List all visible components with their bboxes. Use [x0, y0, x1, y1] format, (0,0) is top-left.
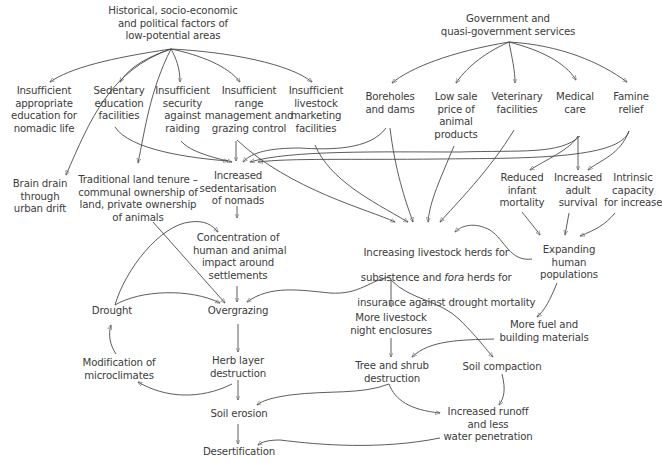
herds-line-2a: subsistence and — [361, 272, 445, 283]
edge-historical-range — [171, 49, 240, 82]
edge-adult-expanding — [565, 213, 569, 235]
edge-gov-famine — [509, 42, 627, 82]
node-concentration: Concentration of human and animal impact… — [193, 232, 283, 282]
node-sedentary-education: Sedentary education facilities — [88, 85, 150, 123]
node-medical-care: Medical care — [548, 91, 602, 116]
herds-line-2b: fora — [444, 272, 464, 283]
edge-intrinsic-expanding — [580, 213, 615, 236]
node-expanding-populations: Expanding human populations — [534, 244, 604, 282]
edge-drought-overgrazing — [115, 293, 220, 305]
edge-expanding-fuel — [537, 283, 557, 317]
edge-gov-veterinary — [509, 42, 515, 83]
node-night-enclosures: More livestock night enclosures — [348, 312, 434, 337]
edge-runoff-desertification — [258, 438, 440, 445]
node-historical-factors: Historical, socio-economic and political… — [98, 5, 248, 43]
edge-tree-runoff — [389, 384, 440, 413]
edge-microclimates-drought — [110, 325, 116, 354]
node-increasing-herds: Increasing livestock herds for subsisten… — [345, 234, 515, 322]
edge-gov-boreholes — [392, 42, 509, 83]
node-reduced-infant-mortality: Reduced infant mortality — [494, 172, 550, 210]
edge-historical-security — [171, 49, 180, 82]
node-insufficient-education: Insufficient appropriate education for n… — [4, 85, 84, 135]
edge-historical-education — [50, 49, 171, 82]
node-boreholes: Boreholes and dams — [360, 91, 420, 116]
edge-compaction-runoff — [499, 374, 504, 405]
node-microclimates: Modification of microclimates — [79, 357, 159, 382]
node-sedentarisation: Increased sedentarisation of nomads — [198, 170, 278, 208]
edge-marketing-herds — [315, 145, 408, 222]
node-government-services: Government and quasi-government services — [433, 13, 583, 38]
node-veterinary: Veterinary facilities — [486, 91, 548, 116]
node-land-tenure: Traditional land tenure – communal owner… — [78, 174, 198, 224]
edge-tree-erosion — [257, 384, 389, 405]
edge-infant-expanding — [522, 212, 540, 235]
node-tree-shrub: Tree and shrub destruction — [352, 360, 432, 385]
node-intrinsic-capacity: Intrinsic capacity for increase — [604, 172, 662, 210]
node-insufficient-marketing: Insufficient livestock marketing facilit… — [284, 85, 348, 135]
node-drought: Drought — [88, 305, 136, 318]
node-fuel-building: More fuel and building materials — [497, 319, 591, 344]
node-insufficient-range: Insufficient range management and grazin… — [204, 85, 294, 135]
herds-line-2c: herds for — [464, 272, 512, 283]
edge-boreholes-herds — [390, 128, 413, 222]
herds-line-1: Increasing livestock herds for — [364, 247, 509, 258]
herds-line-3: insurance against drought mortality — [357, 297, 535, 308]
node-brain-drain: Brain drain through urban drift — [10, 178, 70, 216]
node-famine-relief: Famine relief — [606, 91, 656, 116]
edge-fuel-tree — [412, 339, 494, 357]
edge-gov-medical — [509, 42, 576, 80]
node-herb-layer: Herb layer destruction — [208, 355, 268, 380]
edge-medical-sedentarisation — [250, 136, 580, 162]
node-desertification: Desertification — [196, 446, 282, 459]
edge-herb-microclimates — [138, 382, 232, 395]
edge-medical-infant — [530, 136, 578, 170]
edge-gov-lowsale — [456, 42, 509, 83]
node-soil-compaction: Soil compaction — [460, 361, 544, 374]
node-increased-adult-survival: Increased adult survival — [550, 172, 606, 210]
node-increased-runoff: Increased runoff and less water penetrat… — [440, 406, 536, 444]
node-low-sale-price: Low sale price of animal products — [428, 91, 484, 141]
node-soil-erosion: Soil erosion — [206, 408, 272, 421]
node-overgrazing: Overgrazing — [204, 305, 272, 318]
